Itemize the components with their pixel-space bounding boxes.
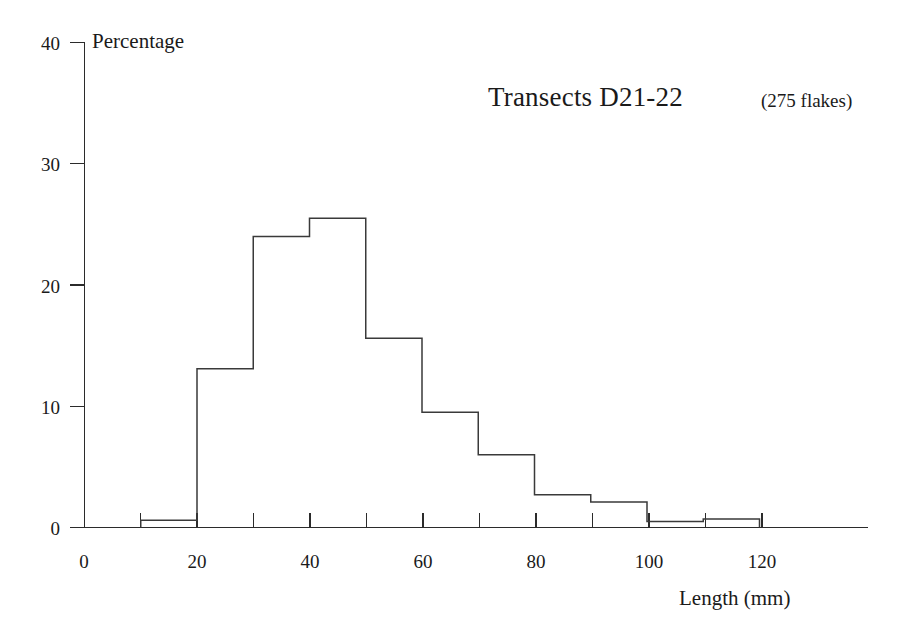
x-tick-label-80: 80 [506, 552, 566, 571]
x-tick-label-0: 0 [54, 552, 114, 571]
y-tick-marks [70, 43, 85, 528]
x-tick-label-40: 40 [280, 552, 340, 571]
x-tick-label-60: 60 [393, 552, 453, 571]
y-tick-label-10: 10 [16, 398, 60, 417]
y-tick-label-0: 0 [16, 519, 60, 538]
x-tick-label-20: 20 [167, 552, 227, 571]
y-axis-title: Percentage [92, 31, 184, 52]
y-tick-label-30: 30 [16, 155, 60, 174]
chart-title: Transects D21-22 [488, 84, 683, 111]
histogram-figure: 0 10 20 30 40 0 20 40 60 80 100 120 Perc… [0, 0, 924, 640]
y-tick-label-20: 20 [16, 277, 60, 296]
sample-size-annotation: (275 flakes) [761, 91, 852, 110]
x-tick-label-120: 120 [732, 552, 792, 571]
x-tick-label-100: 100 [619, 552, 679, 571]
x-axis-title: Length (mm) [679, 588, 790, 609]
y-tick-label-40: 40 [16, 34, 60, 53]
histogram-bars [141, 218, 760, 527]
plot-area: 0 10 20 30 40 0 20 40 60 80 100 120 Perc… [0, 0, 924, 640]
